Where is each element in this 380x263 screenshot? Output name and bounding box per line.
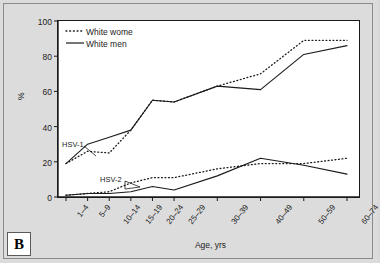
ytick-label-40: 40 — [28, 123, 52, 133]
ytick-label-20: 20 — [28, 158, 52, 168]
legend-glyphs — [66, 31, 84, 43]
hsv1-annotation: HSV-1 — [62, 140, 84, 149]
hsv2-annotation: HSV-2 — [100, 175, 122, 184]
legend-entry-white-women: White wome — [86, 27, 133, 37]
ytick-label-0: 0 — [28, 193, 52, 203]
y-axis-label: % — [16, 92, 26, 100]
data-series-group — [66, 40, 347, 195]
series-line-hsv-1-white-wome — [66, 40, 347, 163]
x-axis-label: Age, yrs — [0, 240, 377, 250]
ytick-label-80: 80 — [28, 52, 52, 62]
legend-entry-white-men: White men — [86, 39, 127, 49]
panel-label: B — [7, 232, 31, 256]
hsv1-leader-line — [84, 146, 96, 156]
ytick-label-60: 60 — [28, 87, 52, 97]
x-axis-label-text: Age, yrs — [195, 240, 226, 250]
series-line-hsv-1-white-men — [66, 46, 347, 164]
ytick-label-100: 100 — [28, 17, 52, 27]
hsv2-leader-line — [125, 181, 140, 189]
